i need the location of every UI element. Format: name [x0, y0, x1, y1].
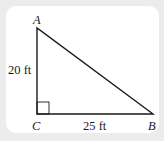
vertex-label-c: C [32, 119, 41, 133]
side-label-ac: 20 ft [8, 63, 32, 77]
right-angle-marker [37, 102, 49, 114]
right-triangle-diagram: A B C 20 ft 25 ft [0, 0, 164, 141]
triangle-abc [37, 28, 153, 114]
side-label-cb: 25 ft [83, 119, 107, 133]
vertex-label-a: A [32, 13, 41, 27]
vertex-label-b: B [148, 119, 156, 133]
